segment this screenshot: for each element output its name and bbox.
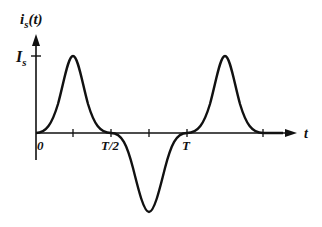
y-axis-arrow-icon xyxy=(32,34,40,46)
tick-label-half-period: T/2 xyxy=(101,138,120,153)
is-level-label: Is xyxy=(15,48,27,68)
tick-label-zero: 0 xyxy=(37,138,44,153)
tick-label-period: T xyxy=(182,138,191,153)
y-axis-label: is(t) xyxy=(20,11,43,30)
x-axis-label: t xyxy=(304,126,309,141)
current-waveform-diagram: is(t) Is t 0 T/2 T xyxy=(0,0,322,227)
x-axis-arrow-icon xyxy=(285,129,297,137)
